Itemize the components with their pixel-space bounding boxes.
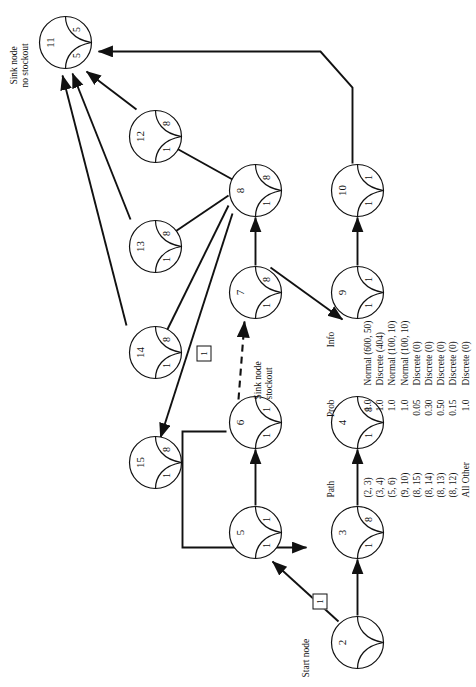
- node-6-right-value: 1: [260, 401, 271, 417]
- table-cell-path-2: (5, 6): [385, 441, 397, 497]
- table-cell-info-6: Discrete (0): [434, 275, 446, 385]
- node-12: 1218: [128, 109, 182, 163]
- node-13-right-value: 8: [160, 225, 171, 241]
- node-5-right-value: 1: [260, 511, 271, 527]
- table-cell-info-2: Normal (100, 10): [385, 275, 397, 385]
- node-3: 318: [330, 505, 384, 559]
- node-15-right-value: 8: [160, 441, 171, 457]
- table-cell-prob-7: 0.15: [446, 399, 458, 433]
- table-cell-path-0: (2, 3): [361, 441, 373, 497]
- table-cell-prob-5: 0.30: [422, 399, 434, 433]
- node-7-right-value: 8: [260, 271, 271, 287]
- table-cell-prob-1: 1.0: [373, 399, 385, 433]
- node-6-left-value: 1: [260, 427, 271, 443]
- table-body-prob: 1.01.01.01.00.050.300.500.151.0: [361, 399, 471, 433]
- node-id-13: 13: [133, 219, 145, 273]
- node-11: 1155: [38, 15, 92, 69]
- node-5: 511: [228, 505, 282, 559]
- table-cell-path-4: (8, 15): [410, 441, 422, 497]
- node-8-left-value: 1: [260, 195, 271, 211]
- node-11-right-value: 5: [70, 21, 81, 37]
- node-2-annotation: Start node: [300, 638, 311, 677]
- node-14-left-value: 1: [160, 357, 171, 373]
- node-id-8: 8: [233, 163, 245, 217]
- table-cell-path-8: All Other: [459, 441, 471, 497]
- table-header-path: Path: [324, 441, 336, 497]
- node-13-left-value: 1: [160, 251, 171, 267]
- node-10: 1011: [330, 163, 384, 217]
- node-14-right-value: 8: [160, 331, 171, 347]
- table-header-prob: Prob: [324, 399, 336, 433]
- table-cell-path-3: (9, 10): [398, 441, 410, 497]
- table-cell-path-5: (8, 14): [422, 441, 434, 497]
- table-cell-info-5: Discrete (0): [422, 275, 434, 385]
- table-cell-prob-8: 1.0: [459, 399, 471, 433]
- node-15: 1518: [128, 435, 182, 489]
- table-cell-info-8: Discrete (0): [459, 275, 471, 385]
- node-11-left-value: 5: [70, 47, 81, 63]
- node-3-left-value: 1: [362, 537, 373, 553]
- table-header-info: Info: [324, 293, 336, 385]
- node-id-15: 15: [133, 435, 145, 489]
- node-id-5: 5: [233, 505, 245, 559]
- node-id-10: 10: [335, 163, 347, 217]
- table-cell-info-1: Discrete (404): [373, 275, 385, 385]
- table-cell-prob-6: 0.50: [434, 399, 446, 433]
- node-5-left-value: 1: [260, 537, 271, 553]
- node-id-14: 14: [133, 325, 145, 379]
- node-id-2: 2: [335, 615, 347, 669]
- table-cell-prob-3: 1.0: [398, 399, 410, 433]
- node-15-left-value: 1: [160, 467, 171, 483]
- table-cell-info-3: Normal (100, 10): [398, 275, 410, 385]
- node-6: 611: [228, 395, 282, 449]
- table-cell-path-1: (3, 4): [373, 441, 385, 497]
- node-10-right-value: 1: [362, 169, 373, 185]
- node-id-7: 7: [233, 265, 245, 319]
- node-id-3: 3: [335, 505, 347, 559]
- node-id-12: 12: [133, 109, 145, 163]
- node-8-right-value: 8: [260, 169, 271, 185]
- node-8: 818: [228, 163, 282, 217]
- edge-weight-box-2: 1: [196, 345, 211, 361]
- node-2: 2: [330, 615, 384, 669]
- table-cell-path-6: (8, 13): [434, 441, 446, 497]
- table-body-info: Normal (600, 50)Discrete (404)Normal (10…: [361, 275, 471, 385]
- path-probability-table: Path (2, 3)(3, 4)(5, 6)(9, 10)(8, 15)(8,…: [300, 483, 361, 497]
- node-10-left-value: 1: [362, 195, 373, 211]
- node-13: 1318: [128, 219, 182, 273]
- table-cell-info-7: Discrete (0): [446, 275, 458, 385]
- node-3-right-value: 8: [362, 511, 373, 527]
- node-14: 1418: [128, 325, 182, 379]
- table-cell-prob-4: 0.05: [410, 399, 422, 433]
- node-7: 718: [228, 265, 282, 319]
- table-body-path: (2, 3)(3, 4)(5, 6)(9, 10)(8, 15)(8, 14)(…: [361, 441, 471, 497]
- edge-weight-box-1: 1: [312, 593, 327, 609]
- table-column-path: Path (2, 3)(3, 4)(5, 6)(9, 10)(8, 15)(8,…: [300, 441, 476, 497]
- node-6-annotation: Sink node stockout: [252, 361, 274, 399]
- table-cell-prob-0: 1.0: [361, 399, 373, 433]
- table-cell-prob-2: 1.0: [385, 399, 397, 433]
- node-7-left-value: 1: [260, 297, 271, 313]
- table-column-info: Info Normal (600, 50)Discrete (404)Norma…: [300, 275, 476, 385]
- node-id-11: 11: [43, 15, 55, 69]
- node-12-right-value: 8: [160, 115, 171, 131]
- node-id-6: 6: [233, 395, 245, 449]
- node-12-left-value: 1: [160, 141, 171, 157]
- table-cell-path-7: (8, 12): [446, 441, 458, 497]
- table-column-prob: Prob 1.01.01.01.00.050.300.500.151.0: [300, 399, 476, 433]
- table-cell-info-4: Discrete (0): [410, 275, 422, 385]
- node-11-annotation: Sink node no stockout: [8, 43, 30, 87]
- table-cell-info-0: Normal (600, 50): [361, 275, 373, 385]
